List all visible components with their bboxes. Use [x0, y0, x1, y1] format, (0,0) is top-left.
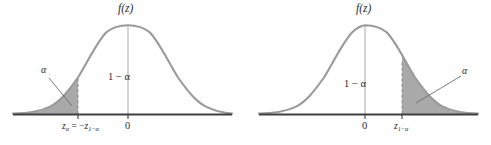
upper-tail-panel: f(z) 1 − α α 0 z1−α — [246, 0, 491, 145]
axis-label-zero: 0 — [125, 121, 130, 132]
normal-distribution-tail-figure: f(z) 1 − α α zα = −z1−α 0 — [0, 0, 491, 145]
alpha-tail-label: α — [462, 66, 467, 76]
shaded-tail-area — [259, 26, 478, 115]
alpha-tail-label: α — [41, 65, 46, 75]
density-function-label: f(z) — [118, 3, 133, 15]
confidence-area-label: 1 − α — [344, 79, 366, 90]
axis-label-critical-value: zα = −z1−α — [62, 122, 99, 132]
upper-tail-plot — [246, 0, 491, 145]
density-function-label: f(z) — [356, 3, 371, 15]
normal-density-curve — [259, 25, 478, 113]
axis-label-zero: 0 — [362, 121, 367, 132]
confidence-area-label: 1 − α — [108, 72, 130, 83]
lower-tail-panel: f(z) 1 − α α zα = −z1−α 0 — [0, 0, 245, 145]
axis-label-critical-value: z1−α — [394, 122, 408, 132]
